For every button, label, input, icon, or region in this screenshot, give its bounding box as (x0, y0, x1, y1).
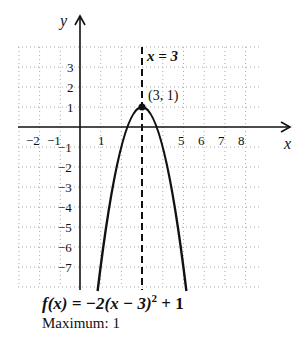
x-tick-label: 5 (178, 134, 185, 147)
axis-of-symmetry-label: x = 3 (147, 50, 178, 63)
y-axis-label: y (60, 14, 67, 27)
vertex-point (139, 104, 146, 111)
maximum-caption: Maximum: 1 (42, 315, 120, 332)
y-tick-label: −4 (58, 201, 72, 214)
grid (18, 47, 262, 287)
y-tick-label: −3 (58, 181, 72, 194)
y-tick-label: 1 (67, 101, 74, 114)
x-tick-label: −2 (26, 134, 40, 147)
parabola-curve (98, 107, 187, 291)
function-caption: f(x) = −2(x − 3)2 + 1 (42, 292, 184, 314)
y-tick-label: 2 (67, 81, 74, 94)
x-tick-label: 1 (98, 134, 105, 147)
vertex-label: (3, 1) (148, 89, 178, 102)
y-tick-label: −1 (58, 141, 72, 154)
y-tick-label: −2 (58, 161, 72, 174)
y-tick-label: −5 (58, 221, 72, 234)
x-tick-label: 8 (238, 134, 245, 147)
y-tick-label: 3 (67, 61, 74, 74)
x-tick-label: 7 (218, 134, 225, 147)
x-tick-label: 6 (198, 134, 205, 147)
y-tick-label: −7 (58, 261, 72, 274)
y-tick-label: −6 (58, 241, 72, 254)
x-axis-label: x (284, 137, 291, 150)
